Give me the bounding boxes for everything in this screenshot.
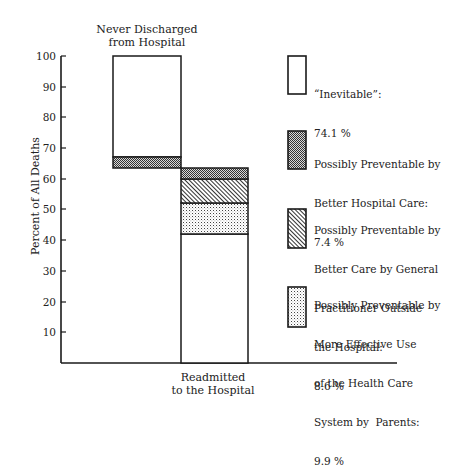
segment-inevitable bbox=[181, 234, 248, 363]
bar-never-discharged bbox=[113, 56, 181, 168]
y-tick-label: 80 bbox=[43, 111, 56, 123]
legend-swatch-parents bbox=[288, 287, 306, 327]
y-tick-label: 30 bbox=[43, 265, 56, 277]
legend-label: System by Parents: bbox=[314, 416, 440, 429]
category-label-never-discharged: Never Discharged bbox=[96, 23, 197, 36]
legend-swatch-better-hospital-care bbox=[288, 131, 306, 169]
y-tick-label: 100 bbox=[36, 50, 56, 62]
legend-label: “Inevitable”: bbox=[314, 88, 381, 101]
legend-label: Possibly Preventable by bbox=[314, 158, 440, 171]
segment-general-practitioner bbox=[181, 179, 248, 203]
segment-inevitable bbox=[113, 56, 181, 157]
legend-item-parents: Possibly Preventable by More Effective U… bbox=[314, 273, 440, 469]
y-axis-label: Percent of All Deaths bbox=[29, 137, 42, 255]
y-tick-label: 40 bbox=[43, 234, 56, 246]
segment-better-hospital-care bbox=[181, 168, 248, 179]
legend-label: of the Health Care bbox=[314, 377, 440, 390]
legend-label: Possibly Preventable by bbox=[314, 299, 440, 312]
legend-label: Possibly Preventable by bbox=[314, 224, 440, 237]
legend-value: 9.9 % bbox=[314, 455, 440, 468]
y-tick-label: 70 bbox=[43, 142, 56, 154]
segment-better-hospital-care bbox=[113, 157, 181, 168]
legend-label: More Effective Use bbox=[314, 338, 440, 351]
category-label-never-discharged: from Hospital bbox=[109, 36, 186, 49]
y-tick-label: 50 bbox=[43, 203, 56, 215]
y-tick-label: 20 bbox=[43, 296, 56, 308]
bar-readmitted bbox=[181, 168, 248, 363]
legend-swatch-inevitable bbox=[288, 56, 306, 94]
y-tick-label: 90 bbox=[43, 81, 56, 93]
category-label-readmitted: to the Hospital bbox=[172, 384, 255, 397]
legend bbox=[288, 56, 306, 327]
legend-swatch-general-practitioner bbox=[288, 209, 306, 248]
category-label-readmitted: Readmitted bbox=[181, 371, 246, 384]
segment-parents bbox=[181, 203, 248, 234]
y-tick-label: 60 bbox=[43, 173, 56, 185]
y-axis: 10 20 30 40 50 60 70 80 90 100 Percent o… bbox=[29, 50, 66, 363]
y-tick-label: 10 bbox=[43, 326, 56, 338]
